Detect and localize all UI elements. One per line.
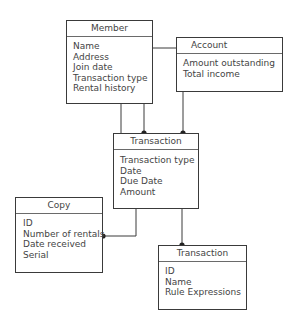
attribute: Serial bbox=[23, 250, 102, 261]
entity-title: Transaction bbox=[114, 134, 198, 150]
attribute: Address bbox=[73, 52, 152, 63]
entity-transaction[interactable]: Transaction Transaction type Date Due Da… bbox=[113, 133, 199, 209]
attribute: ID bbox=[165, 266, 246, 277]
attribute: Name bbox=[73, 41, 152, 52]
entity-account[interactable]: Account Amount outstanding Total income bbox=[176, 37, 283, 92]
attribute: Rule Expressions bbox=[165, 287, 246, 298]
entity-member[interactable]: Member Name Address Join date Transactio… bbox=[66, 20, 153, 104]
entity-attributes: Amount outstanding Total income bbox=[177, 54, 282, 79]
attribute: Number of rentals bbox=[23, 229, 102, 240]
attribute: Total income bbox=[183, 69, 282, 80]
attribute: Due Date bbox=[120, 176, 198, 187]
entity-title: Member bbox=[67, 21, 152, 37]
attribute: Date received bbox=[23, 239, 102, 250]
link-transaction-copy bbox=[103, 208, 136, 236]
attribute: Amount outstanding bbox=[183, 58, 282, 69]
entity-attributes: Transaction type Date Due Date Amount bbox=[114, 150, 198, 197]
attribute: Join date bbox=[73, 62, 152, 73]
attribute: Rental history bbox=[73, 83, 152, 94]
entity-transaction-2[interactable]: Transaction ID Name Rule Expressions bbox=[158, 245, 247, 310]
entity-copy[interactable]: Copy ID Number of rentals Date received … bbox=[15, 197, 103, 273]
attribute: Amount bbox=[120, 187, 198, 198]
entity-title: Copy bbox=[16, 198, 102, 214]
attribute: Transaction type bbox=[120, 155, 198, 166]
entity-attributes: ID Number of rentals Date received Seria… bbox=[16, 214, 102, 260]
entity-attributes: Name Address Join date Transaction type … bbox=[67, 37, 152, 94]
entity-attributes: ID Name Rule Expressions bbox=[159, 262, 246, 298]
entity-title: Transaction bbox=[159, 246, 246, 262]
entity-title: Account bbox=[177, 38, 282, 54]
attribute: ID bbox=[23, 218, 102, 229]
attribute: Date bbox=[120, 166, 198, 177]
attribute: Name bbox=[165, 277, 246, 288]
attribute: Transaction type bbox=[73, 73, 152, 84]
